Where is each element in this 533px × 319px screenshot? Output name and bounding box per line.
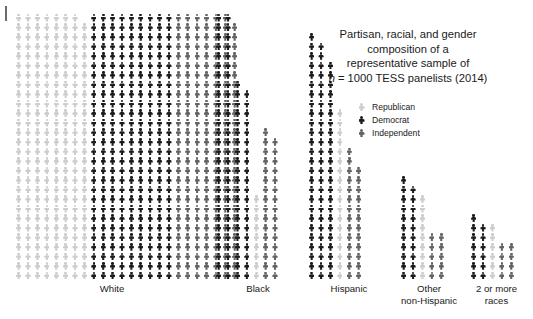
person-icon [202,13,211,23]
person-icon [127,51,136,61]
person-icon [80,41,89,51]
person-icon [61,60,70,70]
person-icon [469,261,478,271]
person-icon [99,270,108,280]
person-icon [42,165,51,175]
person-icon [23,108,32,118]
icon-column [127,12,136,280]
person-icon [174,156,183,166]
title-line-1: Partisan, racial, and gender [288,27,528,42]
person-icon [145,213,154,223]
person-icon [155,185,164,195]
person-icon [52,223,61,233]
person-icon [42,270,51,280]
person-icon [427,242,436,252]
person-icon [42,137,51,147]
person-icon [136,213,145,223]
person-icon [127,70,136,80]
person-icon [192,185,201,195]
legend-item-rep: Republican [356,101,506,113]
axis-label-other-non-hispanic: Other non-Hispanic [392,283,466,306]
person-icon [335,251,344,261]
person-icon [70,251,79,261]
person-icon [127,165,136,175]
person-icon [202,213,211,223]
person-icon [261,270,270,280]
person-icon [223,156,232,166]
person-icon [202,89,211,99]
person-icon [127,251,136,261]
person-icon [242,118,251,128]
person-icon [202,137,211,147]
person-icon [164,175,173,185]
person-icon [14,194,23,204]
person-icon [52,89,61,99]
person-icon [33,270,42,280]
person-icon [223,137,232,147]
person-icon [233,127,242,137]
person-icon [270,261,279,271]
person-icon [145,251,154,261]
person-icon [42,185,51,195]
person-icon [155,137,164,147]
person-icon [202,175,211,185]
person-icon [155,165,164,175]
person-icon [307,127,316,137]
person-icon [399,204,408,214]
person-icon [316,108,325,118]
person-icon [108,89,117,99]
person-icon [192,223,201,233]
person-icon [316,165,325,175]
person-icon [89,165,98,175]
person-icon [52,60,61,70]
person-icon [307,185,316,195]
person-icon [127,22,136,32]
person-icon [335,146,344,156]
person-icon [270,213,279,223]
person-icon [183,213,192,223]
person-icon [233,261,242,271]
person-icon [33,213,42,223]
person-icon [223,194,232,204]
person-icon [183,137,192,147]
person-icon [223,165,232,175]
person-icon [89,251,98,261]
person-icon [127,127,136,137]
person-icon [270,175,279,185]
person-icon [478,232,487,242]
person-icon [183,51,192,61]
person-icon [61,127,70,137]
person-icon [80,213,89,223]
person-icon [52,80,61,90]
person-icon [136,127,145,137]
person-icon [14,270,23,280]
person-icon [326,232,335,242]
person-icon [233,156,242,166]
person-icon [33,185,42,195]
person-icon [326,204,335,214]
person-icon [52,32,61,42]
person-icon [316,146,325,156]
person-icon [23,70,32,80]
person-icon [145,223,154,233]
person-icon [99,22,108,32]
person-icon [70,22,79,32]
person-icon [164,223,173,233]
person-icon [145,99,154,109]
person-icon [164,213,173,223]
person-icon [155,127,164,137]
person-icon [70,80,79,90]
person-icon [345,194,354,204]
person-icon [89,146,98,156]
sample-size-rest: = 1000 TESS panelists (2014) [335,72,487,84]
person-icon [80,270,89,280]
person-icon [99,137,108,147]
person-icon [99,204,108,214]
person-icon [252,194,261,204]
person-icon [270,137,279,147]
person-icon [70,32,79,42]
person-icon [42,213,51,223]
person-icon [33,13,42,23]
person-icon [117,270,126,280]
person-icon [192,137,201,147]
